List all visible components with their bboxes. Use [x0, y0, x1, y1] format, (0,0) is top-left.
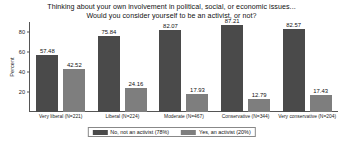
bar-yes-activist — [63, 69, 85, 112]
chart-title-line-2: Would you consider yourself to be an act… — [0, 12, 343, 21]
bar-yes-activist — [248, 99, 270, 112]
legend-swatch-yes-activist — [181, 130, 196, 135]
bar-group: 87.21 12.79 — [215, 22, 277, 112]
chart-title: Thinking about your own involvement in p… — [0, 3, 343, 21]
bar-wrap: 87.21 — [221, 22, 243, 112]
activist-bar-chart: Thinking about your own involvement in p… — [0, 0, 343, 142]
bar-value: 57.48 — [40, 48, 55, 54]
bar-value: 17.93 — [190, 87, 205, 93]
x-tick-label-very-liberal: Very liberal (N=221) — [30, 114, 92, 119]
bar-value: 75.84 — [102, 29, 117, 35]
y-tick-label-60: 60 — [11, 49, 25, 55]
bar-value: 82.07 — [163, 23, 178, 29]
bar-value: 12.79 — [252, 92, 267, 98]
bar-no-activist — [221, 25, 243, 112]
x-tick-label-very-conservative: Very conservative (N=204) — [276, 114, 338, 119]
bar-wrap: 24.16 — [125, 22, 147, 112]
x-tick-label-moderate: Moderate (N=467) — [153, 114, 215, 119]
legend-item-no-activist: No, not an activist (78%) — [92, 129, 169, 135]
bar-group: 82.57 17.43 — [276, 22, 338, 112]
bar-wrap: 82.07 — [159, 22, 181, 112]
y-tick-label-40: 40 — [11, 69, 25, 75]
bar-value: 24.16 — [129, 81, 144, 87]
bar-no-activist — [98, 36, 120, 112]
legend-label-yes-activist: Yes, an activist (20%) — [199, 129, 251, 135]
chart-title-line-1: Thinking about your own involvement in p… — [0, 3, 343, 12]
bar-wrap: 42.52 — [63, 22, 85, 112]
bar-value: 17.43 — [313, 88, 328, 94]
bar-no-activist — [159, 30, 181, 112]
bar-value: 42.52 — [67, 62, 82, 68]
bar-no-activist — [36, 55, 58, 112]
bar-group: 57.48 42.52 — [30, 22, 92, 112]
bar-yes-activist — [186, 94, 208, 112]
bar-group: 75.84 24.16 — [92, 22, 154, 112]
bar-wrap: 75.84 — [98, 22, 120, 112]
legend-item-yes-activist: Yes, an activist (20%) — [181, 129, 251, 135]
x-axis-labels: Very liberal (N=221) Liberal (N=224) Mod… — [30, 114, 338, 119]
x-tick-label-liberal: Liberal (N=224) — [92, 114, 154, 119]
bar-no-activist — [283, 29, 305, 112]
x-tick-label-conservative: Conservative (N=344) — [215, 114, 277, 119]
bar-wrap: 12.79 — [248, 22, 270, 112]
chart-legend: No, not an activist (78%) Yes, an activi… — [87, 127, 255, 137]
bar-wrap: 57.48 — [36, 22, 58, 112]
legend-label-no-activist: No, not an activist (78%) — [110, 129, 169, 135]
bar-yes-activist — [125, 88, 147, 112]
bar-value: 87.21 — [225, 18, 240, 24]
plot-area: Percent 20 40 60 80 57.48 42.52 75.84 — [29, 22, 338, 112]
y-tick-label-80: 80 — [11, 29, 25, 35]
bar-wrap: 17.93 — [186, 22, 208, 112]
legend-swatch-no-activist — [92, 130, 107, 135]
bar-groups: 57.48 42.52 75.84 24.16 — [30, 22, 338, 112]
y-tick-label-20: 20 — [11, 89, 25, 95]
bar-wrap: 82.57 — [283, 22, 305, 112]
bar-group: 82.07 17.93 — [153, 22, 215, 112]
bar-yes-activist — [310, 95, 332, 112]
bar-wrap: 17.43 — [310, 22, 332, 112]
bar-value: 82.57 — [286, 22, 301, 28]
